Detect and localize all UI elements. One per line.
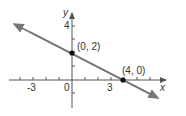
point-x-intercept: [120, 77, 125, 82]
point-y-intercept: [69, 50, 74, 55]
x-tick-label-neg3: -3: [27, 82, 36, 93]
x-tick-label-3: 3: [107, 82, 113, 93]
x-tick-label-0: 0: [64, 82, 70, 93]
x-axis-label: x: [159, 82, 166, 93]
point-label-4-0: (4, 0): [122, 65, 145, 76]
y-axis-label: y: [62, 7, 69, 18]
y-tick-label-4: 4: [64, 20, 70, 31]
point-label-0-2: (0, 2): [77, 41, 100, 52]
coordinate-plane: y x 4 -3 0 3 (0, 2) (4, 0): [0, 0, 186, 116]
